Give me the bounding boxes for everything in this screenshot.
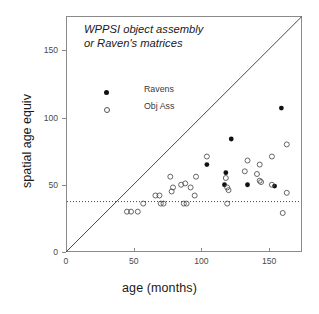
plot-frame [66,16,302,252]
scatter-plot-figure: WPPSI object assembly or Raven's matrice… [0,0,319,314]
x-tick-label: 150 [262,256,276,266]
y-tick-label: 100 [34,113,58,123]
y-tick-label: 0 [34,247,58,257]
y-tick-mark [62,50,66,51]
y-tick-mark [62,252,66,253]
x-tick-label: 50 [129,256,139,266]
legend-label-ravens: Ravens [144,84,174,94]
x-tick-mark [201,248,202,252]
y-axis-title: spatial age equiv [20,46,34,236]
open-circle-icon [104,107,110,113]
y-tick-mark [62,185,66,186]
y-tick-label: 50 [34,180,58,190]
x-tick-mark [134,248,135,252]
x-axis-title: age (months) [0,281,319,295]
plot-annotation: WPPSI object assembly or Raven's matrice… [84,23,274,50]
legend-label-obj-ass: Obj Ass [144,101,174,111]
y-tick-mark [62,118,66,119]
x-tick-label: 100 [194,256,208,266]
x-tick-mark [269,248,270,252]
filled-circle-icon [104,90,109,95]
annotation-line-2: or Raven's matrices [84,37,274,51]
x-tick-label: 0 [64,256,69,266]
x-tick-mark [66,248,67,252]
annotation-line-1: WPPSI object assembly [84,23,274,37]
y-tick-label: 150 [34,45,58,55]
